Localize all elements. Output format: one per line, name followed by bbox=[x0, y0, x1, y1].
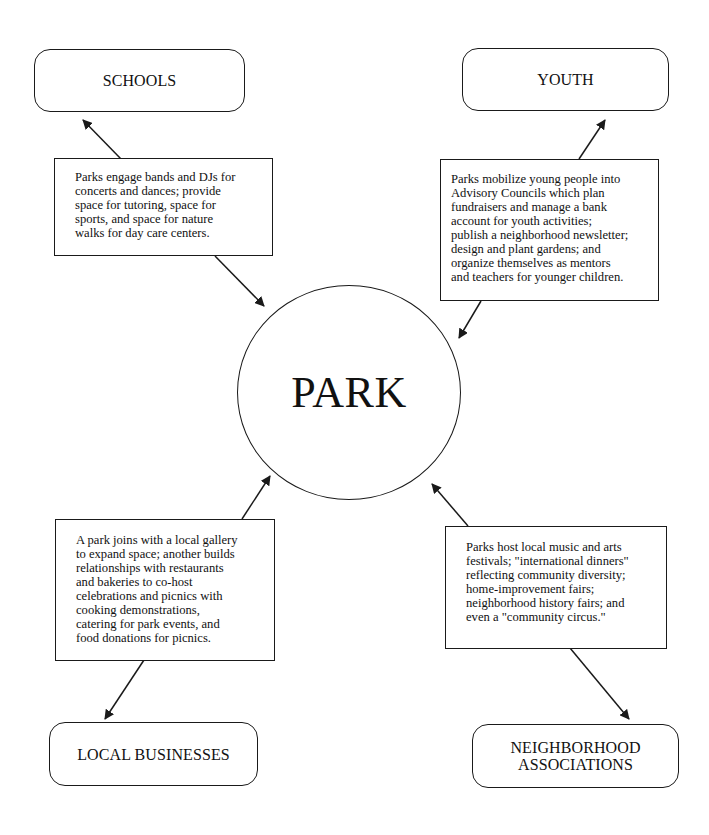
description-line: cooking demonstrations, bbox=[76, 603, 274, 617]
youth-node: YOUTH bbox=[462, 48, 669, 111]
park-partnership-diagram: PARK SCHOOLS YOUTH LOCAL BUSINESSES NEIG… bbox=[0, 0, 709, 835]
description-line: festivals; "international dinners" bbox=[466, 554, 666, 568]
description-line: neighborhood history fairs; and bbox=[466, 596, 666, 610]
description-line: to expand space; another builds bbox=[76, 547, 274, 561]
park-hub-circle: PARK bbox=[237, 285, 461, 500]
description-line: catering for park events, and bbox=[76, 617, 274, 631]
local-businesses-node: LOCAL BUSINESSES bbox=[49, 722, 258, 786]
arrow-neighborhood-to-park bbox=[432, 484, 468, 526]
arrow-schools-to-park bbox=[215, 256, 264, 306]
description-line: food donations for picnics. bbox=[76, 631, 274, 645]
description-line: even a "community circus." bbox=[466, 610, 666, 624]
arrow-local-businesses-to-park bbox=[242, 476, 270, 519]
arrow-to-schools bbox=[83, 120, 121, 159]
arrow-to-youth bbox=[579, 120, 605, 159]
description-line: reflecting community diversity; bbox=[466, 568, 666, 582]
description-line: sports, and space for nature bbox=[75, 212, 272, 226]
neighborhood-associations-label-line2: ASSOCIATIONS bbox=[518, 756, 633, 773]
description-line: and bakeries to co-host bbox=[76, 575, 274, 589]
schools-description-box: Parks engage bands and DJs for concerts … bbox=[54, 158, 273, 256]
arrow-to-neighborhood-associations bbox=[570, 648, 629, 719]
arrow-to-local-businesses bbox=[105, 660, 144, 719]
description-line: walks for day care centers. bbox=[75, 226, 272, 240]
local-businesses-description-box: A park joins with a local gallery to exp… bbox=[55, 519, 275, 661]
local-businesses-label: LOCAL BUSINESSES bbox=[77, 746, 230, 763]
description-line: publish a neighborhood newsletter; bbox=[451, 228, 658, 242]
description-line: fundraisers and manage a bank bbox=[451, 200, 658, 214]
description-line: celebrations and picnics with bbox=[76, 589, 274, 603]
youth-label: YOUTH bbox=[537, 71, 594, 88]
description-line: design and plant gardens; and bbox=[451, 242, 658, 256]
park-hub-label: PARK bbox=[291, 367, 406, 418]
neighborhood-associations-label-line1: NEIGHBORHOOD bbox=[510, 739, 640, 756]
description-line: and teachers for younger children. bbox=[451, 270, 658, 284]
description-line: concerts and dances; provide bbox=[75, 184, 272, 198]
description-line: account for youth activities; bbox=[451, 214, 658, 228]
description-line: organize themselves as mentors bbox=[451, 256, 658, 270]
description-line: Parks engage bands and DJs for bbox=[75, 170, 272, 184]
description-line: relationships with restaurants bbox=[76, 561, 274, 575]
description-line: space for tutoring, space for bbox=[75, 198, 272, 212]
arrow-youth-to-park bbox=[459, 301, 481, 338]
description-line: Advisory Councils which plan bbox=[451, 186, 658, 200]
neighborhood-associations-description-box: Parks host local music and arts festival… bbox=[445, 526, 667, 649]
description-line: A park joins with a local gallery bbox=[76, 533, 274, 547]
schools-label: SCHOOLS bbox=[103, 72, 177, 89]
description-line: home-improvement fairs; bbox=[466, 582, 666, 596]
schools-node: SCHOOLS bbox=[34, 49, 245, 112]
neighborhood-associations-node: NEIGHBORHOOD ASSOCIATIONS bbox=[472, 724, 679, 788]
description-line: Parks host local music and arts bbox=[466, 540, 666, 554]
description-line: Parks mobilize young people into bbox=[451, 172, 658, 186]
youth-description-box: Parks mobilize young people into Advisor… bbox=[440, 159, 659, 301]
